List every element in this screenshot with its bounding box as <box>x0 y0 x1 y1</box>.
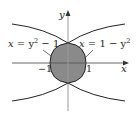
y-axis-label: y <box>58 9 65 20</box>
left-pointer <box>43 50 51 56</box>
tick-one: 1 <box>86 63 92 74</box>
graph: y x −1 1 x = y2 − 1 x = 1 − y2 <box>0 0 136 113</box>
lower-left-curve <box>12 83 68 101</box>
x-axis-label: x <box>121 63 127 74</box>
tick-minus-one: −1 <box>38 63 52 74</box>
y-axis-arrow-icon <box>66 10 71 16</box>
lower-right-curve <box>68 83 125 101</box>
right-equation-label: x = 1 − y2 <box>79 37 130 49</box>
right-pointer <box>86 50 93 57</box>
left-equation-label: x = y2 − 1 <box>8 37 59 49</box>
